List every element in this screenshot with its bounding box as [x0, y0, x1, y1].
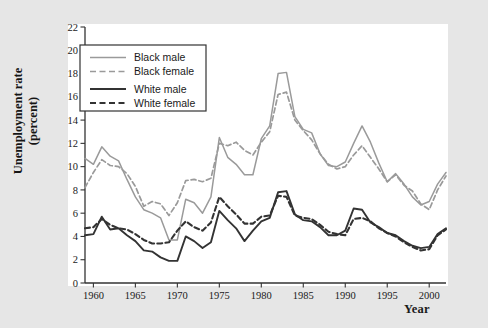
y-tick-label: 14: [68, 115, 79, 126]
y-tick-label: 18: [68, 68, 79, 79]
chart-canvas: 0246810121416182022196019651970197519801…: [0, 0, 488, 328]
x-tick-label: 1995: [377, 290, 398, 301]
y-tick-label: 12: [68, 138, 79, 149]
x-tick-label: 1960: [83, 290, 104, 301]
x-tick-label: 1985: [293, 290, 314, 301]
y-axis-title: Unemployment rate (percent): [11, 31, 45, 211]
x-axis-title: Year: [404, 302, 430, 317]
y-tick-label: 0: [73, 278, 78, 289]
y-axis-title-line1: Unemployment rate: [11, 31, 26, 211]
y-tick-label: 16: [68, 91, 79, 102]
x-tick-label: 1970: [167, 290, 188, 301]
y-tick-label: 8: [73, 185, 78, 196]
y-tick-label: 20: [68, 45, 79, 56]
chart-figure: 0246810121416182022196019651970197519801…: [0, 0, 488, 328]
x-tick-label: 2000: [419, 290, 440, 301]
y-axis-title-line2: (percent): [26, 31, 41, 211]
y-tick-label: 10: [68, 161, 79, 172]
legend-label-black-female: Black female: [134, 65, 194, 77]
x-tick-label: 1980: [251, 290, 272, 301]
legend-label-white-male: White male: [134, 83, 187, 95]
x-tick-label: 1990: [335, 290, 356, 301]
y-tick-label: 2: [73, 254, 78, 265]
y-tick-label: 22: [68, 22, 79, 33]
x-tick-label: 1975: [209, 290, 230, 301]
y-tick-label: 4: [73, 231, 79, 242]
legend-label-white-female: White female: [134, 97, 195, 109]
x-tick-label: 1965: [125, 290, 146, 301]
y-tick-label: 6: [73, 208, 78, 219]
legend-label-black-male: Black male: [134, 51, 186, 63]
